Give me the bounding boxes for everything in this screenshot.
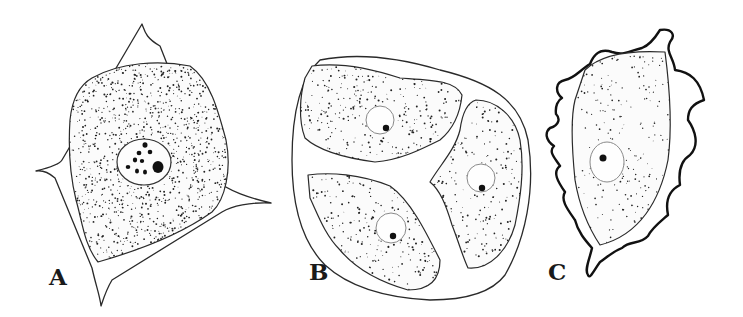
cell-illustration-figure: A B C <box>0 0 743 317</box>
nucleus-c <box>590 142 624 182</box>
nucleus-b2 <box>376 213 406 243</box>
nucleolus-b1 <box>383 125 389 131</box>
nucleolus-b3 <box>479 185 485 191</box>
panel-label-b: B <box>309 258 328 285</box>
nucleolus-a <box>153 161 164 173</box>
nucleolus-c <box>600 155 607 162</box>
nucleolus-b2 <box>390 233 396 239</box>
panel-b: B <box>292 56 531 300</box>
panel-label-c: C <box>548 258 566 285</box>
nucleus-b1 <box>366 106 394 134</box>
panel-a: A <box>36 24 271 306</box>
panel-label-a: A <box>48 263 68 290</box>
panel-c: C <box>547 30 704 285</box>
cytoplasm-c <box>572 52 670 245</box>
